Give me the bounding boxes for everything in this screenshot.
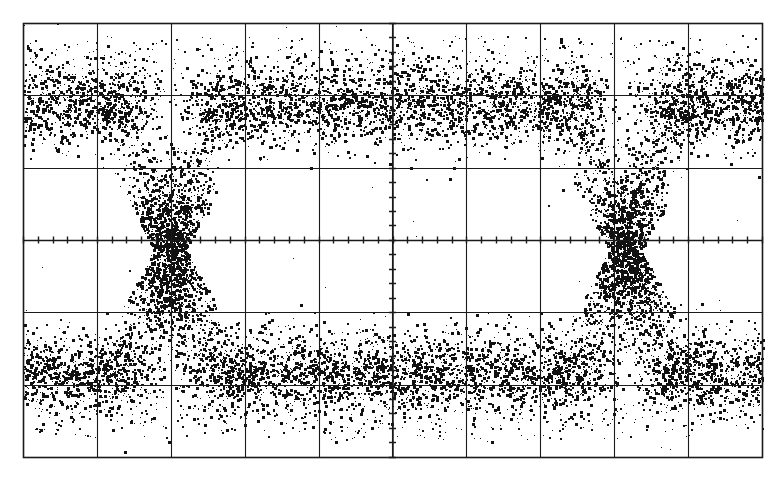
eye-diagram-figure — [0, 0, 782, 481]
oscilloscope-plot-canvas — [0, 0, 782, 481]
